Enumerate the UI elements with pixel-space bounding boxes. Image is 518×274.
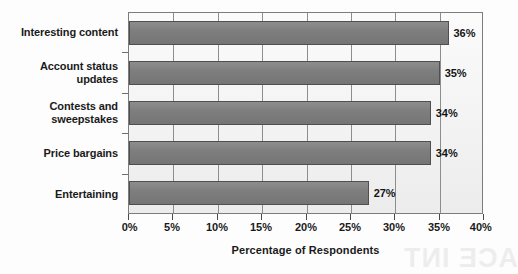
x-axis-tick-label: 25% <box>339 221 361 233</box>
bar-value-interesting-content: 36% <box>454 27 476 39</box>
category-label-contests-and-sweepstakes: Contests and sweepstakes <box>0 93 124 133</box>
x-axis-ticks <box>128 214 483 220</box>
x-axis-tick <box>306 214 307 220</box>
x-axis-tick-label: 0% <box>122 221 138 233</box>
category-label-entertaining: Entertaining <box>0 174 124 214</box>
bars-layer: 36% 35% 34% 34% 27% <box>129 13 482 213</box>
x-axis-tick <box>261 214 262 220</box>
bar-value-account-status-updates: 35% <box>445 67 467 79</box>
x-axis-tick-labels: 0%5%10%15%20%25%30%35%40% <box>128 221 483 237</box>
bar-interesting-content[interactable] <box>129 21 449 45</box>
x-axis-tick-label: 20% <box>295 221 317 233</box>
bar-row: 34% <box>129 93 482 133</box>
x-axis-tick <box>128 214 129 220</box>
bar-row: 34% <box>129 133 482 173</box>
x-axis-tick <box>439 214 440 220</box>
plot-area: 36% 35% 34% 34% 27% <box>128 12 483 214</box>
x-axis-tick-label: 15% <box>250 221 272 233</box>
x-axis-tick <box>350 214 351 220</box>
bar-value-entertaining: 27% <box>374 187 396 199</box>
bar-contests-and-sweepstakes[interactable] <box>129 101 431 125</box>
bar-price-bargains[interactable] <box>129 141 431 165</box>
x-axis-tick-label: 35% <box>428 221 450 233</box>
x-axis-tick <box>217 214 218 220</box>
bar-row: 35% <box>129 53 482 93</box>
bar-account-status-updates[interactable] <box>129 61 440 85</box>
x-axis-tick-label: 5% <box>164 221 180 233</box>
bar-row: 36% <box>129 13 482 53</box>
x-axis-tick-label: 30% <box>383 221 405 233</box>
category-label-account-status-updates: Account status updates <box>0 52 124 92</box>
x-axis-tick <box>394 214 395 220</box>
bar-value-price-bargains: 34% <box>436 147 458 159</box>
x-axis-tick <box>483 214 484 220</box>
bar-chart-figure: Interesting content Account status updat… <box>0 0 518 274</box>
x-axis-title: Percentage of Respondents <box>128 244 483 256</box>
category-label-price-bargains: Price bargains <box>0 133 124 173</box>
x-axis-tick-label: 10% <box>206 221 228 233</box>
bar-value-contests-and-sweepstakes: 34% <box>436 107 458 119</box>
bar-row: 27% <box>129 173 482 213</box>
bar-entertaining[interactable] <box>129 181 369 205</box>
x-axis-tick <box>172 214 173 220</box>
x-axis-tick-label: 40% <box>470 221 492 233</box>
category-label-interesting-content: Interesting content <box>0 12 124 52</box>
category-axis-labels: Interesting content Account status updat… <box>0 12 124 214</box>
